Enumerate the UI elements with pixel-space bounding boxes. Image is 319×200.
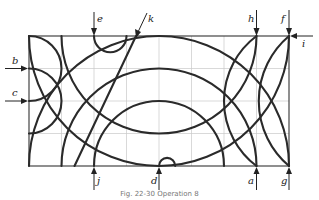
arrow-d: d <box>151 167 162 190</box>
figure-caption: Fig. 22-30 Operation 8 <box>0 190 319 198</box>
label-i: i <box>302 38 305 49</box>
arrow-e: e <box>91 12 103 36</box>
arrow-b: b <box>5 55 28 72</box>
label-d: d <box>151 175 157 186</box>
label-f: f <box>280 13 287 24</box>
arrow-c: c <box>5 87 28 104</box>
label-e: e <box>97 13 103 24</box>
label-a: a <box>248 175 254 186</box>
arrow-i: i <box>290 33 313 49</box>
arrow-j: j <box>91 167 100 190</box>
arrow-a: a <box>248 167 260 190</box>
label-g: g <box>281 175 287 186</box>
arrow-h: h <box>248 10 260 36</box>
diagram-figure: e k h f i b <box>0 0 319 200</box>
label-k: k <box>148 13 154 24</box>
label-h: h <box>248 13 254 24</box>
label-c: c <box>12 87 18 98</box>
arrow-g: g <box>281 167 292 190</box>
label-b: b <box>12 55 18 66</box>
arrow-k: k <box>135 13 154 38</box>
label-j: j <box>95 175 100 186</box>
arrow-f: f <box>280 10 292 36</box>
